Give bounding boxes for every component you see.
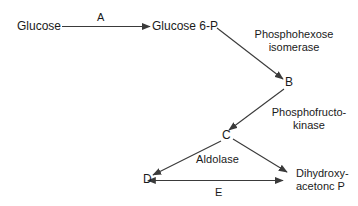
glycolysis-diagram: Glucose Glucose 6-P B C D Dihydroxy- ace… bbox=[0, 0, 358, 206]
enzyme-label-phosphohexose-isomerase-line2: isomerase bbox=[242, 41, 346, 54]
enzyme-label-a: A bbox=[97, 11, 104, 24]
enzyme-label-phosphofructokinase-line1: Phosphofructo- bbox=[272, 106, 347, 118]
enzyme-label-phosphofructokinase: Phosphofructo- kinase bbox=[262, 106, 356, 132]
enzyme-label-phosphofructokinase-line2: kinase bbox=[262, 119, 356, 132]
node-d: D bbox=[143, 173, 152, 186]
enzyme-label-phosphohexose-isomerase-line1: Phosphohexose bbox=[255, 28, 334, 40]
arrow-c-to-dhap bbox=[233, 139, 287, 172]
node-glucose-6-p: Glucose 6-P bbox=[152, 20, 218, 33]
enzyme-label-e: E bbox=[215, 186, 222, 199]
enzyme-label-phosphohexose-isomerase: Phosphohexose isomerase bbox=[242, 28, 346, 54]
node-glucose: Glucose bbox=[17, 20, 61, 33]
node-dihydroxyacetone-p-line2: acetonc P bbox=[296, 180, 349, 193]
enzyme-label-aldolase: Aldolase bbox=[196, 153, 239, 166]
node-b: B bbox=[285, 76, 293, 89]
node-dihydroxyacetone-p-line1: Dihydroxy- bbox=[296, 167, 349, 179]
node-c: C bbox=[222, 129, 231, 142]
node-dihydroxyacetone-p: Dihydroxy- acetonc P bbox=[296, 167, 349, 193]
